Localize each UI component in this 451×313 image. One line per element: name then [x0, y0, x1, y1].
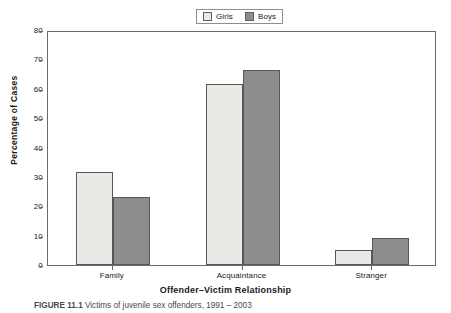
- figure-number: FIGURE 11.1: [34, 301, 83, 310]
- x-tick-label: Family: [52, 271, 172, 280]
- figure-caption-text: Victims of juvenile sex offenders, 1991 …: [85, 301, 252, 310]
- x-axis-title: Offender–Victim Relationship: [0, 285, 451, 295]
- y-tick-mark: [39, 149, 43, 150]
- y-axis-ticks: 01020304050607080: [0, 31, 43, 266]
- legend-entry-boys: Boys: [245, 12, 276, 21]
- legend-label-boys: Boys: [258, 12, 276, 21]
- bar-family-boys: [113, 197, 150, 265]
- y-tick-mark: [39, 207, 43, 208]
- legend-swatch-boys: [245, 12, 254, 21]
- y-tick-mark: [39, 119, 43, 120]
- legend-swatch-girls: [203, 12, 212, 21]
- y-tick-mark: [39, 266, 43, 267]
- y-tick-mark: [39, 90, 43, 91]
- x-tick-mark: [371, 266, 372, 270]
- bar-acquaintance-girls: [206, 84, 243, 265]
- bar-stranger-girls: [335, 250, 372, 265]
- y-tick-mark: [39, 237, 43, 238]
- y-axis-title: Percentage of Cases: [9, 55, 19, 185]
- plot-area: [47, 31, 436, 266]
- legend-label-girls: Girls: [216, 12, 233, 21]
- bar-family-girls: [76, 172, 113, 265]
- chart-legend: Girls Boys: [196, 9, 283, 24]
- legend-entry-girls: Girls: [203, 12, 233, 21]
- bar-acquaintance-boys: [243, 70, 280, 265]
- x-tick-mark: [242, 266, 243, 270]
- figure-container: Girls Boys 01020304050607080 Percentage …: [0, 0, 451, 313]
- figure-caption: FIGURE 11.1 Victims of juvenile sex offe…: [34, 301, 426, 313]
- y-tick-mark: [39, 178, 43, 179]
- x-tick-label: Acquaintance: [182, 271, 302, 280]
- y-tick-mark: [39, 31, 43, 32]
- x-tick-label: Stranger: [311, 271, 431, 280]
- x-tick-mark: [112, 266, 113, 270]
- bar-stranger-boys: [372, 238, 409, 265]
- y-tick-mark: [39, 60, 43, 61]
